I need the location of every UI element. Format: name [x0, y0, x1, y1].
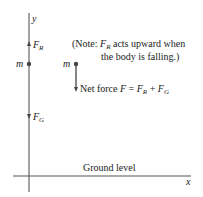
net-force-arrowhead-icon [74, 87, 78, 92]
note-line-2: the body is falling.) [101, 52, 179, 62]
net-force-equation: Net force F = FR + FG [80, 84, 169, 94]
resistance-arrowhead-icon [27, 41, 31, 46]
x-axis-label: x [186, 177, 190, 187]
y-axis-label: y [32, 14, 36, 24]
mass-label: m [16, 59, 23, 69]
net-mass-label: m [63, 59, 70, 69]
gravity-force-label: FG [33, 112, 44, 122]
resistance-force-label: FR [33, 40, 43, 50]
mass-dot [27, 62, 31, 66]
gravity-arrowhead-icon [27, 114, 31, 119]
ground-level-label: Ground level [83, 163, 136, 173]
note-line-1: (Note: FR acts upward when [72, 39, 185, 49]
